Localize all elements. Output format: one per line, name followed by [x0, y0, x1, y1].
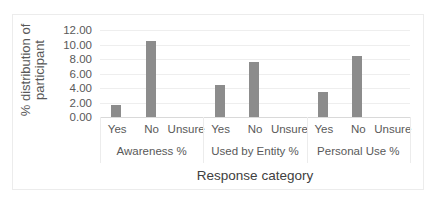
group-divider	[100, 117, 101, 163]
bar	[249, 62, 259, 117]
x-tick-label: Yes	[108, 122, 127, 136]
y-tick-label: 4.00	[70, 82, 92, 94]
group-divider	[307, 117, 308, 163]
y-tick-label: 12.00	[63, 24, 92, 36]
bar	[352, 56, 362, 117]
gridline	[100, 30, 410, 31]
group-divider	[410, 117, 411, 163]
x-tick-label: Unsure	[374, 122, 411, 136]
x-tick-label: No	[144, 122, 159, 136]
plot-area: 0.00 2.00 4.00 6.00 8.00 10.00 12.00	[100, 30, 410, 117]
y-axis-title-line2: participant	[33, 15, 47, 125]
group-label: Personal Use %	[317, 144, 399, 158]
bar	[215, 85, 225, 117]
x-tick-label: No	[248, 122, 263, 136]
group-divider	[203, 117, 204, 163]
y-tick-label: 10.00	[63, 39, 92, 51]
y-tick-label: 6.00	[70, 68, 92, 80]
bar	[318, 92, 328, 117]
x-axis: YesNoUnsureYesNoUnsureYesNoUnsure Awaren…	[100, 117, 410, 163]
x-tick-label: Unsure	[168, 122, 205, 136]
group-label: Used by Entity %	[211, 144, 299, 158]
y-axis-title-line1: % distribution of	[19, 15, 33, 125]
bar	[111, 105, 121, 117]
y-tick-label: 0.00	[70, 111, 92, 123]
x-tick-label: Unsure	[271, 122, 308, 136]
x-tick-label: No	[351, 122, 366, 136]
bar	[146, 41, 156, 117]
y-tick-label: 2.00	[70, 97, 92, 109]
x-tick-label: Yes	[314, 122, 333, 136]
group-label: Awareness %	[117, 144, 187, 158]
x-axis-title: Response category	[197, 168, 313, 184]
x-tick-label: Yes	[211, 122, 230, 136]
y-tick-label: 8.00	[70, 53, 92, 65]
